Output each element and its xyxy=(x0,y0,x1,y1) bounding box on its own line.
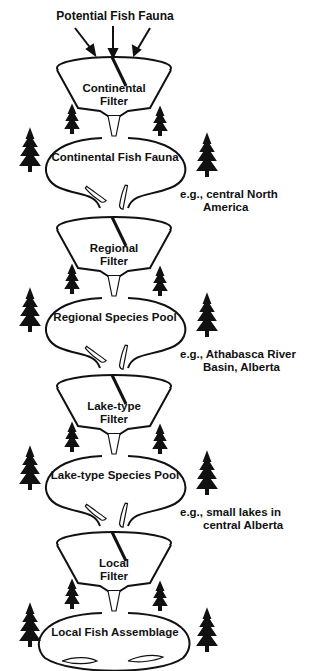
title: Potential Fish Fauna xyxy=(0,10,230,23)
filter-line-2: Filter xyxy=(100,413,128,425)
filter-line-1: Local xyxy=(99,557,129,569)
filter-line-2: Filter xyxy=(100,570,128,582)
example-line-1: e.g., small lakes in xyxy=(180,506,281,518)
example-line-1: e.g., central North xyxy=(180,188,278,200)
stage-3 xyxy=(21,375,216,528)
filter-label-3: Lake-typeFilter xyxy=(74,400,154,426)
pool-label-3: Lake-type Species Pool xyxy=(40,469,190,482)
example-label-1: e.g., central NorthAmerica xyxy=(180,188,278,214)
example-line-2: Basin, Alberta xyxy=(180,361,296,374)
example-label-3: e.g., small lakes incentral Alberta xyxy=(180,506,283,532)
stage-1 xyxy=(21,57,216,210)
example-line-2: America xyxy=(180,201,278,214)
filter-label-1: ContinentalFilter xyxy=(74,82,154,108)
filter-line-1: Regional xyxy=(90,242,139,254)
pool-label-4: Local Fish Assemblage xyxy=(40,626,190,639)
filter-line-1: Continental xyxy=(82,82,145,94)
pool-label-2: Regional Species Pool xyxy=(40,311,190,324)
filter-line-2: Filter xyxy=(100,255,128,267)
filter-label-4: LocalFilter xyxy=(74,557,154,583)
example-line-2: central Alberta xyxy=(180,519,283,532)
filter-diagram xyxy=(0,0,318,671)
example-line-1: e.g., Athabasca River xyxy=(180,348,296,360)
example-label-2: e.g., Athabasca RiverBasin, Alberta xyxy=(180,348,296,374)
filter-line-2: Filter xyxy=(100,95,128,107)
pool-label-1: Continental Fish Fauna xyxy=(40,151,190,164)
filter-line-1: Lake-type xyxy=(87,400,141,412)
filter-label-2: RegionalFilter xyxy=(74,242,154,268)
stage-4 xyxy=(21,532,216,671)
stage-2 xyxy=(21,217,216,370)
arrows xyxy=(75,26,150,57)
